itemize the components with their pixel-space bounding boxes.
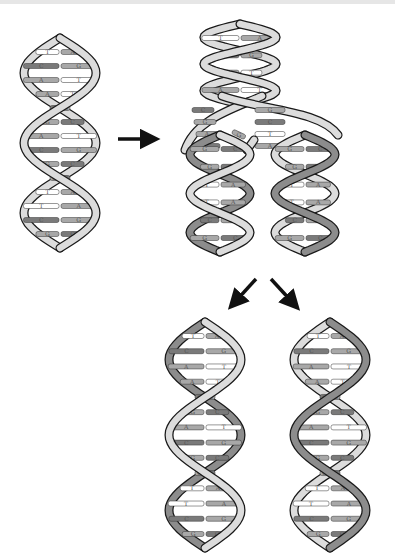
down-right-arrow-icon	[271, 279, 293, 303]
svg-text:C: C	[215, 408, 220, 415]
svg-text:G: G	[221, 439, 226, 446]
svg-text:T: T	[77, 132, 81, 139]
svg-text:T: T	[39, 202, 43, 209]
svg-text:A: A	[76, 202, 82, 209]
svg-text:G: G	[346, 515, 351, 522]
svg-text:C: C	[70, 118, 75, 125]
svg-text:T: T	[316, 332, 320, 339]
svg-text:A: A	[230, 181, 236, 188]
svg-text:T: T	[249, 69, 253, 76]
svg-text:T: T	[222, 423, 226, 430]
replication-fork: TACGATATCGACGCTAGGCGCTATACGGCGCGCTATACGG…	[185, 24, 338, 252]
svg-text:G: G	[237, 131, 242, 138]
svg-text:G: G	[287, 234, 292, 241]
svg-text:T: T	[184, 500, 188, 507]
daughter-dna-right: TACGATATCGGCATCGGCGCTATACGGC	[293, 322, 367, 548]
svg-text:C: C	[39, 216, 44, 223]
svg-text:T: T	[45, 48, 49, 55]
svg-text:A: A	[38, 76, 44, 83]
svg-text:C: C	[340, 454, 345, 461]
svg-text:C: C	[207, 216, 212, 223]
svg-text:A: A	[314, 378, 320, 385]
svg-text:C: C	[184, 347, 189, 354]
svg-text:C: C	[268, 118, 273, 125]
svg-text:G: G	[45, 230, 50, 237]
svg-text:T: T	[347, 363, 351, 370]
svg-text:C: C	[309, 515, 314, 522]
svg-text:T: T	[309, 500, 313, 507]
svg-text:C: C	[184, 515, 189, 522]
svg-text:G: G	[207, 163, 212, 170]
svg-text:G: G	[287, 145, 292, 152]
svg-text:A: A	[44, 90, 50, 97]
svg-text:C: C	[340, 408, 345, 415]
svg-text:T: T	[315, 484, 319, 491]
svg-text:C: C	[184, 439, 189, 446]
svg-text:G: G	[191, 530, 196, 537]
svg-text:C: C	[215, 454, 220, 461]
svg-text:C: C	[201, 106, 206, 113]
svg-text:A: A	[221, 500, 227, 507]
down-left-arrow-icon	[235, 279, 256, 302]
svg-text:A: A	[315, 198, 321, 205]
svg-text:G: G	[76, 62, 81, 69]
svg-text:T: T	[77, 76, 81, 83]
svg-text:T: T	[222, 363, 226, 370]
svg-text:G: G	[203, 118, 208, 125]
svg-text:G: G	[221, 515, 226, 522]
svg-text:G: G	[268, 106, 273, 113]
svg-text:A: A	[38, 132, 44, 139]
svg-text:G: G	[76, 146, 81, 153]
svg-text:A: A	[346, 500, 352, 507]
svg-text:G: G	[316, 530, 321, 537]
svg-text:G: G	[202, 234, 207, 241]
dna-replication-diagram: TACGATATCGGCATCGGCGCTATACGGC TACGATATCGA…	[0, 0, 395, 559]
svg-text:A: A	[308, 363, 314, 370]
svg-text:C: C	[39, 62, 44, 69]
svg-text:A: A	[230, 198, 236, 205]
svg-text:T: T	[45, 188, 49, 195]
svg-text:T: T	[218, 34, 222, 41]
svg-text:T: T	[190, 484, 194, 491]
svg-text:G: G	[346, 439, 351, 446]
svg-text:T: T	[191, 332, 195, 339]
svg-text:G: G	[76, 216, 81, 223]
svg-text:C: C	[309, 347, 314, 354]
svg-text:A: A	[183, 363, 189, 370]
svg-text:C: C	[292, 216, 297, 223]
svg-text:A: A	[267, 142, 273, 149]
svg-text:C: C	[309, 439, 314, 446]
svg-text:G: G	[346, 347, 351, 354]
svg-text:A: A	[189, 378, 195, 385]
svg-text:C: C	[70, 160, 75, 167]
svg-text:C: C	[39, 146, 44, 153]
svg-text:G: G	[292, 163, 297, 170]
svg-text:T: T	[347, 423, 351, 430]
svg-text:A: A	[256, 34, 262, 41]
svg-text:T: T	[268, 130, 272, 137]
svg-text:A: A	[308, 423, 314, 430]
parent-dna-helix: TACGATATCGGCATCGGCGCTATACGGC	[23, 38, 96, 248]
daughter-dna-left: TACGATATCGGCATCGGCGCTATACGGC	[168, 322, 242, 548]
svg-text:A: A	[183, 423, 189, 430]
svg-text:G: G	[221, 347, 226, 354]
svg-text:G: G	[202, 145, 207, 152]
svg-text:A: A	[315, 181, 321, 188]
